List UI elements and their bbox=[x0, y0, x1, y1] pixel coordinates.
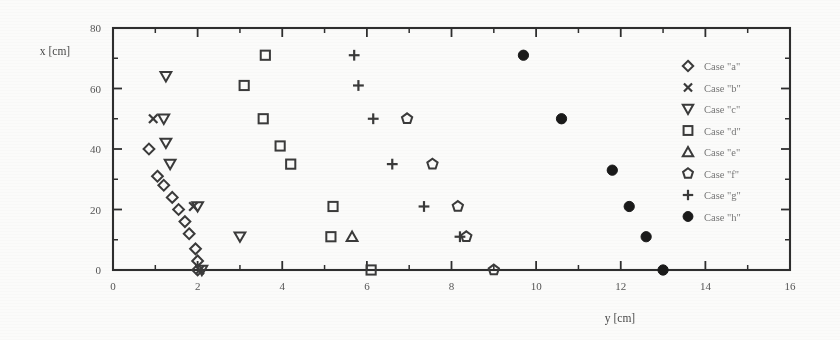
x-axis-ticks: 0246810121416 bbox=[110, 28, 796, 292]
marker-circle-filled bbox=[658, 265, 668, 275]
y-tick-label: 60 bbox=[90, 83, 102, 95]
legend-item-label: Case "g" bbox=[704, 190, 741, 201]
marker-diamond-open bbox=[190, 243, 201, 254]
marker-square-open bbox=[328, 202, 337, 211]
marker-triangle-down-open bbox=[165, 160, 176, 169]
marker-plus bbox=[368, 113, 379, 124]
marker-circle-filled bbox=[641, 232, 651, 242]
legend-item-label: Case "b" bbox=[704, 83, 741, 94]
x-tick-label: 16 bbox=[785, 280, 797, 292]
legend-item-label: Case "d" bbox=[704, 126, 741, 137]
marker-diamond-open bbox=[152, 171, 163, 182]
marker-pentagon-open bbox=[683, 168, 693, 177]
marker-circle-filled bbox=[556, 114, 566, 124]
marker-triangle-down-open bbox=[683, 105, 693, 114]
marker-circle-filled bbox=[683, 212, 693, 222]
marker-diamond-open bbox=[683, 61, 693, 71]
legend-item-d[interactable]: Case "d" bbox=[684, 126, 741, 137]
y-tick-label: 0 bbox=[96, 264, 102, 276]
legend-item-a[interactable]: Case "a" bbox=[683, 61, 740, 72]
legend-item-f[interactable]: Case "f" bbox=[683, 168, 739, 179]
series-triangle-down-open bbox=[158, 72, 245, 275]
marker-triangle-down-open bbox=[158, 114, 169, 123]
marker-pentagon-open bbox=[402, 113, 412, 123]
marker-square-open bbox=[684, 126, 693, 135]
legend-item-h[interactable]: Case "h" bbox=[683, 212, 741, 223]
marker-plus bbox=[387, 159, 398, 170]
legend-item-label: Case "f" bbox=[704, 169, 739, 180]
marker-diamond-open bbox=[180, 216, 191, 227]
marker-diamond-open bbox=[144, 144, 155, 155]
marker-diamond-open bbox=[158, 180, 169, 191]
legend-item-label: Case "h" bbox=[704, 212, 741, 223]
data-points-layer bbox=[144, 50, 669, 276]
y-tick-label: 80 bbox=[90, 22, 102, 34]
marker-triangle-down-open bbox=[160, 72, 171, 81]
legend-item-c[interactable]: Case "c" bbox=[683, 104, 740, 115]
marker-circle-filled bbox=[607, 165, 617, 175]
legend: Case "a"Case "b"Case "c"Case "d"Case "e"… bbox=[683, 61, 741, 223]
marker-circle-filled bbox=[518, 50, 528, 60]
x-tick-label: 0 bbox=[110, 280, 116, 292]
legend-item-label: Case "a" bbox=[704, 61, 740, 72]
marker-triangle-up-open bbox=[347, 232, 358, 241]
x-tick-label: 4 bbox=[280, 280, 286, 292]
x-tick-label: 2 bbox=[195, 280, 201, 292]
marker-pentagon-open bbox=[427, 159, 437, 169]
marker-triangle-down-open bbox=[160, 139, 171, 148]
series-circle-filled bbox=[518, 50, 668, 275]
y-axis-ticks: 020406080 bbox=[90, 22, 790, 276]
series-triangle-up-open bbox=[347, 232, 358, 241]
marker-cross-x bbox=[149, 115, 157, 123]
marker-plus bbox=[349, 50, 360, 61]
marker-diamond-open bbox=[173, 204, 184, 215]
marker-square-open bbox=[286, 160, 295, 169]
marker-plus bbox=[683, 190, 693, 200]
legend-item-b[interactable]: Case "b" bbox=[684, 83, 741, 94]
marker-pentagon-open bbox=[453, 201, 463, 211]
y-tick-label: 40 bbox=[90, 143, 102, 155]
y-axis-title: x [cm] bbox=[40, 45, 70, 57]
marker-plus bbox=[419, 201, 430, 212]
x-tick-label: 8 bbox=[449, 280, 455, 292]
marker-circle-filled bbox=[624, 201, 634, 211]
x-tick-label: 10 bbox=[531, 280, 543, 292]
marker-square-open bbox=[259, 114, 268, 123]
legend-item-label: Case "c" bbox=[704, 104, 740, 115]
figure-container: 0246810121416 020406080 y [cm] x [cm] Ca… bbox=[0, 0, 840, 340]
scatter-plot: 0246810121416 020406080 y [cm] x [cm] Ca… bbox=[0, 0, 840, 340]
marker-square-open bbox=[276, 141, 285, 150]
marker-square-open bbox=[326, 232, 335, 241]
marker-square-open bbox=[240, 81, 249, 90]
marker-plus bbox=[353, 80, 364, 91]
marker-triangle-down-open bbox=[235, 232, 246, 241]
x-tick-label: 14 bbox=[700, 280, 712, 292]
series-plus bbox=[349, 50, 466, 242]
marker-diamond-open bbox=[184, 228, 195, 239]
marker-cross-x bbox=[684, 83, 692, 91]
legend-item-e[interactable]: Case "e" bbox=[683, 147, 740, 158]
legend-item-g[interactable]: Case "g" bbox=[683, 190, 741, 201]
y-tick-label: 20 bbox=[90, 204, 102, 216]
marker-square-open bbox=[261, 51, 270, 60]
x-tick-label: 6 bbox=[364, 280, 370, 292]
legend-item-label: Case "e" bbox=[704, 147, 740, 158]
marker-diamond-open bbox=[167, 192, 178, 203]
x-tick-label: 12 bbox=[615, 280, 626, 292]
series-cross-x bbox=[149, 115, 204, 275]
marker-triangle-up-open bbox=[683, 147, 693, 156]
x-axis-title: y [cm] bbox=[605, 312, 635, 325]
series-pentagon-open bbox=[402, 113, 499, 274]
